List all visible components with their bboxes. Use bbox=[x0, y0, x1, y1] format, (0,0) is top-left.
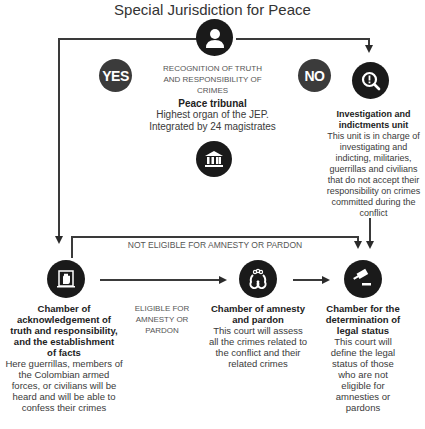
not-eligible-connector-up bbox=[71, 236, 73, 258]
arrow-to-acknowledgement bbox=[55, 236, 63, 244]
amnesty-to-legal-connector bbox=[293, 279, 323, 281]
peace-tribunal-title: Peace tribunal bbox=[130, 98, 295, 109]
arrow-amnesty-to-legal bbox=[322, 276, 330, 284]
handcuffs-icon bbox=[239, 260, 277, 298]
investigation-unit: Investigation and indictments unit This … bbox=[322, 109, 425, 219]
arrow-investigation-to-legal bbox=[366, 241, 374, 249]
top-connector-left bbox=[58, 38, 208, 40]
peace-tribunal: Peace tribunal Highest organ of the JEP.… bbox=[130, 98, 295, 133]
person-icon bbox=[196, 19, 233, 56]
investigation-connector bbox=[369, 218, 371, 242]
chamber-acknowledgement-desc: Here guerrillas, members of the Colombia… bbox=[0, 358, 128, 413]
left-vertical-connector bbox=[58, 38, 60, 238]
not-eligible-connector-top bbox=[71, 236, 358, 238]
courthouse-icon bbox=[196, 141, 232, 177]
recognition-question: RECOGNITION OF TRUTH AND RESPONSIBILITY … bbox=[155, 63, 270, 96]
raised-hand-icon bbox=[47, 260, 85, 298]
yes-label: YES bbox=[102, 68, 129, 84]
chamber-acknowledgement-title: Chamber of acknowledgement of truth and … bbox=[0, 303, 128, 358]
arrow-eligible bbox=[219, 276, 227, 284]
top-connector-right bbox=[236, 38, 369, 40]
chamber-amnesty-title: Chamber of amnesty and pardon bbox=[208, 303, 308, 325]
no-label: NO bbox=[305, 68, 325, 84]
chamber-legal-status: Chamber for the determination of legal s… bbox=[318, 303, 408, 413]
magnifier-alert-icon bbox=[352, 62, 389, 99]
arrow-not-eligible bbox=[354, 241, 362, 249]
chamber-legal-status-desc: This court will define the legal status … bbox=[318, 336, 408, 413]
diagram-title: Special Jurisdiction for Peace bbox=[0, 1, 425, 18]
no-badge: NO bbox=[298, 59, 331, 92]
chamber-amnesty-desc: This court will assess all the crimes re… bbox=[208, 325, 308, 369]
eligible-label: ELIGIBLE FOR AMNESTY OR PARDON bbox=[118, 303, 206, 336]
peace-tribunal-desc-2: Integrated by 24 magistrates bbox=[130, 121, 295, 133]
eligible-connector bbox=[100, 279, 220, 281]
not-eligible-label: NOT ELIGIBLE FOR AMNESTY OR PARDON bbox=[120, 240, 310, 251]
chamber-legal-status-title: Chamber for the determination of legal s… bbox=[318, 303, 408, 336]
investigation-desc: This unit is in charge of investigating … bbox=[322, 131, 425, 219]
gavel-icon bbox=[344, 260, 382, 298]
arrow-to-investigation bbox=[365, 45, 373, 53]
chamber-acknowledgement: Chamber of acknowledgement of truth and … bbox=[0, 303, 128, 413]
investigation-title: Investigation and indictments unit bbox=[322, 109, 425, 131]
yes-badge: YES bbox=[99, 59, 132, 92]
peace-tribunal-desc-1: Highest organ of the JEP. bbox=[130, 109, 295, 121]
chamber-amnesty: Chamber of amnesty and pardon This court… bbox=[208, 303, 308, 369]
